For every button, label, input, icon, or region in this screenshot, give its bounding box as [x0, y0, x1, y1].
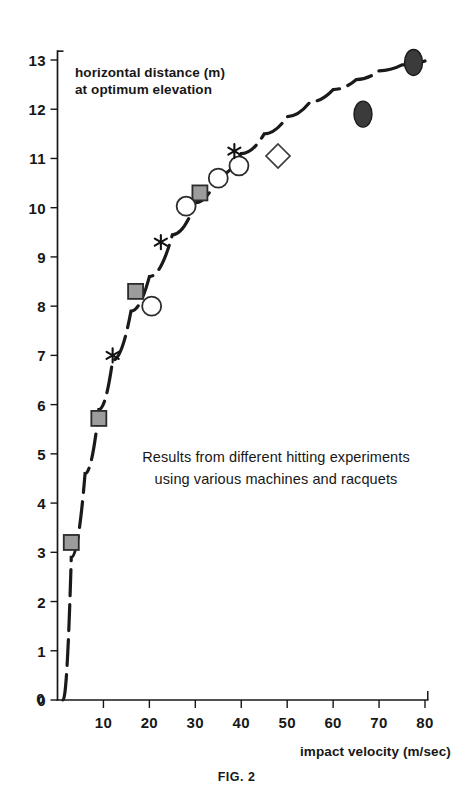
y-axis-title-line-1: horizontal distance (m)	[75, 64, 225, 81]
axes-group	[51, 51, 428, 708]
y-tick-label: 13	[14, 52, 46, 69]
figure-caption: FIG. 2	[0, 770, 473, 784]
x-tick-label: 60	[324, 714, 342, 731]
marker-open-circle	[142, 297, 161, 316]
marker-open-circle	[209, 169, 228, 188]
annotation-line-1: Results from different hitting experimen…	[116, 446, 436, 468]
x-axis-title: impact velocity (m/sec)	[300, 744, 451, 759]
marker-filled-square	[192, 185, 207, 200]
y-tick-label: 3	[14, 544, 46, 561]
marker-filled-square	[128, 284, 143, 299]
y-tick-label: 7	[14, 347, 46, 364]
y-tick-label: 2	[14, 593, 46, 610]
marker-open-circle	[177, 197, 196, 216]
chart-plot-area	[0, 0, 473, 811]
x-tick-label: 20	[141, 714, 159, 731]
y-tick-label: 11	[14, 150, 46, 167]
marker-filled-square	[91, 411, 106, 426]
y-tick-label: 10	[14, 199, 46, 216]
y-tick-label: 8	[14, 298, 46, 315]
annotation-line-2: using various machines and racquets	[116, 468, 436, 490]
marker-filled-ellipse	[405, 49, 423, 75]
y-axis-title-line-2: at optimum elevation	[75, 81, 225, 98]
marker-filled-ellipse	[354, 101, 372, 127]
x-tick-label: 40	[233, 714, 251, 731]
marker-asterisk	[155, 235, 167, 249]
x-tick-label: 70	[370, 714, 388, 731]
y-tick-label: 9	[14, 248, 46, 265]
chart-annotation: Results from different hitting experimen…	[116, 446, 436, 490]
y-tick-label: 5	[14, 445, 46, 462]
x-tick-label: 80	[416, 714, 434, 731]
x-tick-label: 10	[95, 714, 113, 731]
marker-open-diamond	[266, 144, 290, 168]
y-tick-label: 12	[14, 101, 46, 118]
x-tick-label: 50	[278, 714, 296, 731]
figure-container: 012345678910111213 01020304050607080 hor…	[0, 0, 473, 811]
marker-filled-square	[64, 535, 79, 550]
y-tick-label: 1	[14, 642, 46, 659]
y-axis-title: horizontal distance (m) at optimum eleva…	[75, 64, 225, 98]
y-tick-label: 4	[14, 495, 46, 512]
y-tick-label: 6	[14, 396, 46, 413]
x-tick-label: 0	[36, 690, 45, 707]
x-tick-label: 30	[187, 714, 205, 731]
marker-open-circle	[229, 156, 248, 175]
